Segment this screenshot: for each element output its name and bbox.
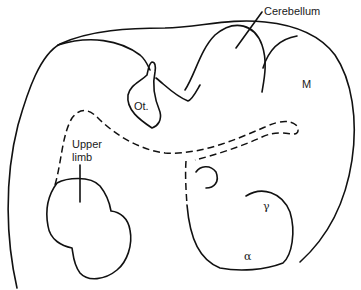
label-upper-limb-1: Upper xyxy=(72,138,102,151)
label-cerebellum: Cerebellum xyxy=(264,5,320,18)
outer-contour xyxy=(8,21,354,288)
label-otocyst: Ot. xyxy=(134,100,149,113)
cerebellum-outline xyxy=(185,25,265,92)
cerebellum-leader xyxy=(236,12,262,48)
hindbrain-contour xyxy=(156,78,200,101)
m-region-outline xyxy=(263,36,297,68)
upper-limb-bud xyxy=(47,179,131,279)
gamma-alpha-arc xyxy=(187,191,293,270)
otocyst-outline xyxy=(128,62,161,128)
label-m: M xyxy=(302,78,311,91)
label-alpha: α xyxy=(244,250,251,263)
embryo-outline-diagram xyxy=(0,0,361,290)
head-fold-line xyxy=(58,40,150,70)
label-upper-limb-2: limb xyxy=(72,151,92,164)
label-gamma: γ xyxy=(263,200,270,213)
small-hook-outline xyxy=(196,167,217,188)
neural-tube-dashed-lower xyxy=(186,161,187,205)
